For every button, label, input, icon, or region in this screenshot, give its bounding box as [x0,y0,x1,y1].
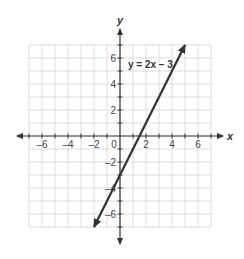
x-tick-label: 2 [143,139,149,150]
x-tick-label: –2 [88,139,100,150]
coordinate-plane: –6–4–20246642–2–4–6 x y y = 2x – 3 [0,0,244,259]
x-tick-label: 6 [195,139,201,150]
y-tick-label: 4 [110,79,116,90]
equation-label: y = 2x – 3 [128,59,173,70]
x-axis-label: x [226,130,234,142]
y-tick-label: –2 [105,157,117,168]
y-axis-label: y [116,14,124,26]
x-tick-label: 4 [169,139,175,150]
x-tick-label: –4 [62,139,74,150]
y-tick-label: 2 [110,105,116,116]
y-tick-label: 6 [110,53,116,64]
y-tick-label: –6 [105,209,117,220]
axes [17,29,223,244]
x-tick-label: –6 [36,139,48,150]
x-tick-label: 0 [111,139,117,150]
